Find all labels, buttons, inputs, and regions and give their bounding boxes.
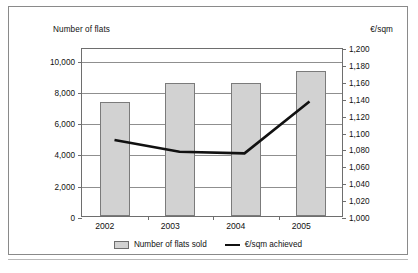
right-tick-label: 1,020 [349, 197, 370, 206]
right-tick-label: 1,000 [349, 214, 370, 223]
chart-frame: Number of flats €/sqm 02,0004,0006,0008,… [8, 6, 408, 255]
right-tick-mark [342, 201, 346, 202]
left-tick-label: 4,000 [55, 151, 76, 160]
legend-label-price-achieved: €/sqm achieved [245, 240, 302, 249]
right-tick-label: 1,140 [349, 95, 370, 104]
x-axis-separator [213, 216, 214, 220]
right-tick-mark [342, 49, 346, 50]
right-tick-label: 1,200 [349, 45, 370, 54]
x-axis-separator [279, 216, 280, 220]
legend-item-price-achieved: €/sqm achieved [225, 240, 302, 249]
legend-label-flats-sold: Number of flats sold [134, 240, 207, 249]
chart-figure: Number of flats €/sqm 02,0004,0006,0008,… [0, 0, 418, 273]
right-tick-mark [342, 167, 346, 168]
left-tick-label: 6,000 [55, 120, 76, 129]
right-tick-label: 1,120 [349, 112, 370, 121]
right-tick-mark [342, 117, 346, 118]
right-tick-mark [342, 218, 346, 219]
x-axis-label-2004: 2004 [226, 221, 245, 231]
line-series-price-per-sqm [82, 49, 342, 216]
legend-item-flats-sold: Number of flats sold [114, 240, 207, 249]
plot-area: 02,0004,0006,0008,00010,000 1,0001,0201,… [81, 48, 343, 217]
right-tick-label: 1,160 [349, 78, 370, 87]
right-tick-mark [342, 134, 346, 135]
right-tick-label: 1,040 [349, 180, 370, 189]
x-axis-label-2005: 2005 [292, 221, 311, 231]
left-tick-label: 0 [70, 214, 75, 223]
bar-swatch-icon [114, 241, 129, 249]
right-tick-label: 1,180 [349, 61, 370, 70]
left-tick-label: 10,000 [50, 57, 75, 66]
x-axis-label-2003: 2003 [161, 221, 180, 231]
left-tick-label: 8,000 [55, 88, 76, 97]
right-axis-title: €/sqm [370, 25, 393, 34]
right-tick-mark [342, 150, 346, 151]
right-tick-label: 1,080 [349, 146, 370, 155]
figure-underline [8, 259, 408, 260]
right-tick-mark [342, 83, 346, 84]
line-swatch-icon [225, 244, 240, 246]
x-axis-separator [148, 216, 149, 220]
chart-legend: Number of flats sold €/sqm achieved [9, 240, 407, 249]
left-tick-label: 2,000 [55, 182, 76, 191]
left-axis-title: Number of flats [53, 25, 110, 34]
right-tick-label: 1,100 [349, 129, 370, 138]
right-tick-mark [342, 66, 346, 67]
right-tick-mark [342, 100, 346, 101]
x-axis-label-2002: 2002 [95, 221, 114, 231]
left-tick-mark [78, 218, 82, 219]
price-line-path [115, 102, 310, 154]
right-tick-label: 1,060 [349, 163, 370, 172]
right-tick-mark [342, 184, 346, 185]
